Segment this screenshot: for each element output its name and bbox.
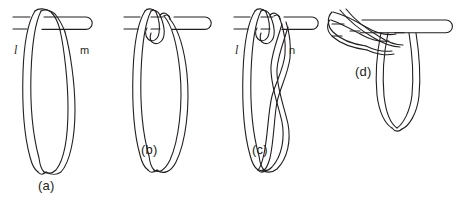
panel-c-rod [234,17,318,29]
panel-c-graphic [234,9,318,172]
panel-a-rod [13,17,92,29]
figure-canvas: l m l n (a) (b) (c) (d) [0,0,470,203]
panel-b-graphic [124,9,211,173]
panel-b-rod [124,17,211,29]
panel-a-band [23,9,75,174]
panel-d-graphic [328,9,453,131]
panel-c-label-l: l [235,43,238,58]
panel-a-label-m: m [80,44,89,56]
panel-d-rod [332,20,452,36]
panel-d-knot [328,9,420,131]
panel-d-caption: (d) [355,64,372,79]
panel-c-label-n: n [289,44,295,56]
panel-a-label-l: l [14,43,17,58]
panel-b-caption: (b) [141,142,158,157]
panel-a-graphic [13,9,92,174]
rope-hitch-diagram [0,0,470,203]
panel-c-caption: (c) [252,142,268,157]
panel-a-caption: (a) [38,178,55,193]
